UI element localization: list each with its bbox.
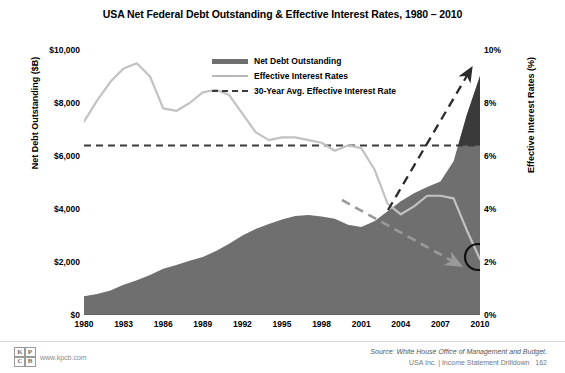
x-axis-ticks: 1980198319861989199219951998200120042007… — [84, 319, 480, 335]
chart-title: USA Net Federal Debt Outstanding & Effec… — [0, 8, 565, 20]
left-tick-8000: $8,000 — [34, 98, 80, 108]
x-tick-2001: 2001 — [341, 319, 381, 329]
logo-cell-b: B — [24, 356, 36, 367]
right-tick-4pct: 4% — [484, 204, 518, 214]
left-tick-2000: $2,000 — [34, 257, 80, 267]
page-number: 162 — [535, 359, 547, 366]
footer-divider — [0, 341, 565, 342]
kpcb-url[interactable]: www.kpcb.com — [40, 354, 87, 361]
legend-item-avg-rate: 30-Year Avg. Effective Interest Rate — [212, 84, 396, 97]
legend-label-avg-rate: 30-Year Avg. Effective Interest Rate — [254, 86, 396, 96]
right-tick-6pct: 6% — [484, 151, 518, 161]
left-tick-6000: $6,000 — [34, 151, 80, 161]
left-tick-10000: $10,000 — [34, 45, 80, 55]
x-tick-1983: 1983 — [104, 319, 144, 329]
right-tick-10pct: 10% — [484, 45, 518, 55]
legend-item-net-debt: Net Debt Outstanding — [212, 54, 396, 67]
source-note: Source: White House Office of Management… — [370, 348, 547, 355]
x-tick-1986: 1986 — [143, 319, 183, 329]
x-tick-1980: 1980 — [64, 319, 104, 329]
area-swatch-icon — [212, 55, 248, 67]
legend-label-effective-rates: Effective Interest Rates — [254, 71, 348, 81]
right-axis-title: Effective Interest Rates (%) — [526, 40, 536, 190]
kpcb-logo: K P C B — [14, 347, 36, 367]
left-tick-4000: $4,000 — [34, 204, 80, 214]
x-tick-1992: 1992 — [222, 319, 262, 329]
line-swatch-icon — [212, 70, 248, 82]
x-tick-1995: 1995 — [262, 319, 302, 329]
right-tick-2pct: 2% — [484, 257, 518, 267]
deck-footer: USA Inc. | Income Statement Drilldown 16… — [409, 359, 547, 366]
x-tick-2004: 2004 — [381, 319, 421, 329]
chart-root: USA Net Federal Debt Outstanding & Effec… — [0, 0, 565, 373]
dashed-swatch-icon — [212, 85, 248, 97]
chart-legend: Net Debt Outstanding Effective Interest … — [212, 54, 396, 99]
x-tick-2007: 2007 — [420, 319, 460, 329]
right-axis-ticks: 10% 8% 6% 4% 2% 0% — [484, 50, 520, 315]
left-axis-title: Net Debt Outstanding ($B) — [30, 38, 40, 188]
x-tick-2010: 2010 — [460, 319, 500, 329]
x-tick-1998: 1998 — [302, 319, 342, 329]
right-tick-8pct: 8% — [484, 98, 518, 108]
debt-area-series — [84, 76, 480, 315]
legend-label-net-debt: Net Debt Outstanding — [254, 56, 341, 66]
legend-item-effective-rates: Effective Interest Rates — [212, 69, 396, 82]
x-tick-1989: 1989 — [183, 319, 223, 329]
deck-name: USA Inc. | Income Statement Drilldown — [409, 359, 529, 366]
